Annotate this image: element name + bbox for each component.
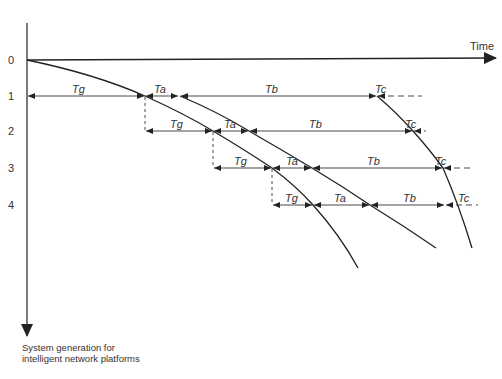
- ta-label: Ta: [334, 192, 346, 204]
- ta-label: Ta: [224, 118, 236, 130]
- generation-axis-label-line2: intelligent network platforms: [22, 353, 140, 364]
- tg-label: Tg: [170, 118, 184, 130]
- generation-axis-label: System generation for intelligent networ…: [22, 342, 140, 364]
- tg-label: Tg: [285, 192, 299, 204]
- ta-label: Ta: [286, 155, 298, 167]
- tc-label: Tc: [435, 155, 447, 167]
- tb-label: Tb: [403, 192, 416, 204]
- tc-label: Tc: [405, 118, 417, 130]
- tb-label: Tb: [367, 155, 380, 167]
- time-axis: [27, 58, 496, 60]
- row-label-3: 3: [8, 162, 14, 174]
- generation-timeline-diagram: 0 1 2 3 4 Time Tg Ta Tb Tc Tg Ta Tb Tc T…: [0, 0, 502, 379]
- generation-curve-2: [180, 96, 436, 248]
- tc-label: Tc: [458, 192, 470, 204]
- generation-curve-3: [377, 96, 472, 248]
- tb-label: Tb: [309, 118, 322, 130]
- ta-label: Ta: [154, 83, 166, 95]
- time-axis-label: Time: [470, 40, 494, 52]
- row-label-4: 4: [8, 199, 14, 211]
- row-label-0: 0: [8, 54, 14, 66]
- row-label-1: 1: [8, 90, 14, 102]
- tc-label: Tc: [375, 83, 387, 95]
- row-label-2: 2: [8, 125, 14, 137]
- tg-label: Tg: [234, 155, 248, 167]
- generation-axis-label-line1: System generation for: [22, 342, 140, 353]
- tb-label: Tb: [265, 83, 278, 95]
- tg-label: Tg: [72, 83, 86, 95]
